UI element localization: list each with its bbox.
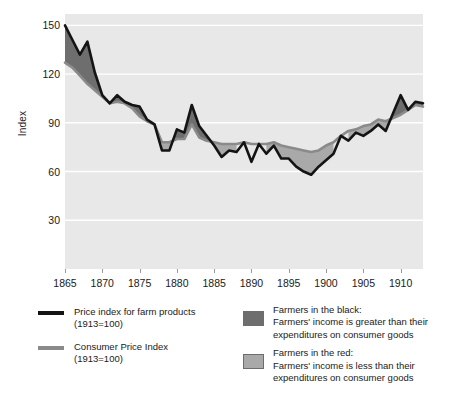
x-tickmark-1895 <box>289 269 290 273</box>
legend-farm-price-line1: Price index for farm products <box>74 306 195 318</box>
y-axis-tick-labels: 306090120150 <box>24 0 60 300</box>
x-tick-label-1890: 1890 <box>231 278 271 289</box>
x-axis-tickmarks <box>0 269 455 274</box>
gray-line-swatch-icon <box>38 346 64 350</box>
legend-item-red-area: Farmers in the red: Farmers' income is l… <box>243 347 455 384</box>
x-tick-label-1880: 1880 <box>157 278 197 289</box>
chart-legend: Price index for farm products (1913=100)… <box>0 300 455 396</box>
x-tickmark-1880 <box>177 269 178 273</box>
legend-red-area-line1: Farmers in the red: <box>273 347 415 359</box>
x-tickmark-1905 <box>363 269 364 273</box>
legend-item-black-area-text: Farmers in the black: Farmers' income is… <box>273 304 428 341</box>
x-tickmark-1900 <box>326 269 327 273</box>
x-tickmark-1885 <box>214 269 215 273</box>
x-tick-label-1870: 1870 <box>82 278 122 289</box>
y-tick-label-120: 120 <box>26 69 60 80</box>
line-area-chart <box>0 0 455 300</box>
plot-area-wrapper: Index 306090120150 186518701875188018851… <box>0 0 455 300</box>
legend-item-farm-price: Price index for farm products (1913=100) <box>38 306 248 331</box>
chart-figure: Index 306090120150 186518701875188018851… <box>0 0 455 396</box>
legend-cpi-line1: Consumer Price Index <box>74 341 168 353</box>
legend-item-farm-price-text: Price index for farm products (1913=100) <box>74 306 195 331</box>
y-tick-label-150: 150 <box>26 20 60 31</box>
legend-red-area-line3: expenditures on consumer goods <box>273 372 415 384</box>
x-tick-label-1910: 1910 <box>381 278 421 289</box>
x-tickmark-1910 <box>401 269 402 273</box>
x-tickmark-1875 <box>140 269 141 273</box>
x-axis-tick-labels: 1865187018751880188518901895190019051910 <box>0 278 455 294</box>
x-tick-label-1865: 1865 <box>45 278 85 289</box>
x-tick-label-1895: 1895 <box>269 278 309 289</box>
y-tick-label-60: 60 <box>26 167 60 178</box>
x-tickmark-1865 <box>65 269 66 273</box>
legend-areas-column: Farmers in the black: Farmers' income is… <box>243 304 455 390</box>
dark-area-swatch-icon <box>243 311 264 326</box>
x-tick-label-1875: 1875 <box>120 278 160 289</box>
x-tickmark-1870 <box>102 269 103 273</box>
y-tick-label-30: 30 <box>26 215 60 226</box>
legend-item-black-area: Farmers in the black: Farmers' income is… <box>243 304 455 341</box>
x-tick-label-1885: 1885 <box>194 278 234 289</box>
legend-black-area-line2: Farmers' income is greater than their <box>273 316 428 328</box>
legend-item-cpi: Consumer Price Index (1913=100) <box>38 341 248 366</box>
legend-series-column: Price index for farm products (1913=100)… <box>38 306 248 376</box>
legend-black-area-line3: expenditures on consumer goods <box>273 329 428 341</box>
legend-cpi-line2: (1913=100) <box>74 353 168 365</box>
dark-line-swatch-icon <box>38 311 64 315</box>
legend-item-cpi-text: Consumer Price Index (1913=100) <box>74 341 168 366</box>
legend-item-red-area-text: Farmers in the red: Farmers' income is l… <box>273 347 415 384</box>
legend-red-area-line2: Farmers' income is less than their <box>273 360 415 372</box>
light-area-swatch-icon <box>243 354 264 369</box>
x-tick-label-1905: 1905 <box>343 278 383 289</box>
legend-black-area-line1: Farmers in the black: <box>273 304 428 316</box>
x-tickmark-1890 <box>251 269 252 273</box>
y-tick-label-90: 90 <box>26 118 60 129</box>
x-tick-label-1900: 1900 <box>306 278 346 289</box>
legend-farm-price-line2: (1913=100) <box>74 318 195 330</box>
